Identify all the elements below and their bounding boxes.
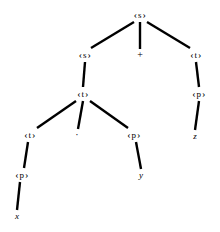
tree-edge bbox=[37, 101, 76, 128]
tree-edge bbox=[136, 142, 141, 169]
right-angle-bracket-icon: › bbox=[142, 10, 146, 20]
tree-node-p: ‹p› bbox=[15, 170, 28, 180]
tree-node-t: ‹t› bbox=[24, 130, 35, 140]
tree-node-: + bbox=[137, 50, 143, 60]
tree-node-p: ‹p› bbox=[192, 89, 205, 99]
tree-edge bbox=[90, 101, 128, 128]
parse-tree-figure: ‹s›‹s›+‹t›‹t›‹p›‹t›·‹p›z‹p›yx bbox=[0, 0, 220, 232]
tree-node-s: ‹s› bbox=[134, 10, 146, 20]
tree-node-s: ‹s› bbox=[79, 50, 91, 60]
tree-edge bbox=[91, 22, 134, 48]
tree-edge bbox=[78, 101, 83, 129]
tree-node-y: y bbox=[139, 171, 143, 180]
right-angle-bracket-icon: › bbox=[32, 130, 36, 140]
right-angle-bracket-icon: › bbox=[202, 89, 206, 99]
tree-edge bbox=[83, 62, 85, 87]
tree-node-: · bbox=[75, 130, 78, 140]
tree-edge bbox=[17, 182, 20, 210]
right-angle-bracket-icon: › bbox=[137, 130, 141, 140]
tree-node-x: x bbox=[15, 212, 19, 221]
tree-node-z: z bbox=[193, 132, 197, 141]
right-angle-bracket-icon: › bbox=[87, 50, 91, 60]
right-angle-bracket-icon: › bbox=[198, 50, 202, 60]
tree-node-t: ‹t› bbox=[190, 50, 201, 60]
tree-node-t: ‹t› bbox=[77, 89, 88, 99]
tree-edge bbox=[24, 142, 28, 168]
right-angle-bracket-icon: › bbox=[25, 170, 29, 180]
tree-node-p: ‹p› bbox=[127, 130, 140, 140]
right-angle-bracket-icon: › bbox=[85, 89, 89, 99]
tree-edge-layer bbox=[0, 0, 220, 232]
tree-edge bbox=[147, 22, 190, 48]
tree-edge bbox=[195, 101, 199, 130]
tree-edge bbox=[196, 62, 199, 87]
